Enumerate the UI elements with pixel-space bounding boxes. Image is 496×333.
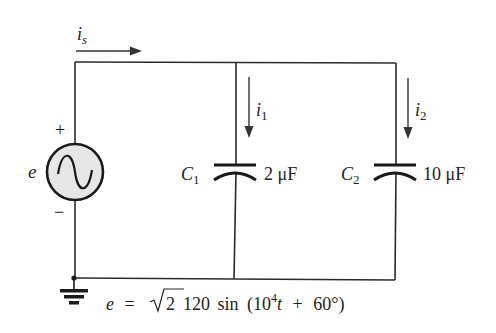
capacitor-plate-curved [214,173,256,180]
arrow-head-icon [404,127,413,139]
c1-value: 2 μF [264,164,297,184]
capacitor-c2 [374,165,416,180]
source-label: e [28,161,36,182]
c2-value: 10 μF [423,164,465,184]
source-current-label: is [77,24,87,47]
source-minus-label: − [54,202,64,222]
c2-label: C2 [341,164,360,187]
arrow-head-icon [245,126,254,138]
arrow-head-icon [130,47,142,56]
ac-voltage-source [47,144,103,200]
source-equation: e = 2 120 sin (104t + 60°) [106,289,344,315]
source-current-arrow [76,47,142,56]
source-plus-label: + [55,120,65,140]
branch2-current-arrow [404,78,413,139]
branch1-current-arrow [245,77,254,138]
c1-label: C1 [181,164,200,187]
branch1-wire-bottom [234,172,236,279]
sqrt-argument: 2 [166,294,175,314]
branch2-wire-bottom [395,172,396,280]
branch2-current-label: i2 [415,100,427,123]
equation-text: e = [106,294,135,314]
bottom-wire [75,278,395,280]
capacitor-c1 [214,165,256,180]
circuit-diagram: + − e is i1 i2 C1 2 μF C2 10 μF [0,0,496,333]
branch1-current-label: i1 [256,100,268,123]
equation-rest: 120 sin (104t + 60°) [183,291,344,315]
ground-icon [60,275,88,304]
capacitor-plate-curved [374,173,416,180]
